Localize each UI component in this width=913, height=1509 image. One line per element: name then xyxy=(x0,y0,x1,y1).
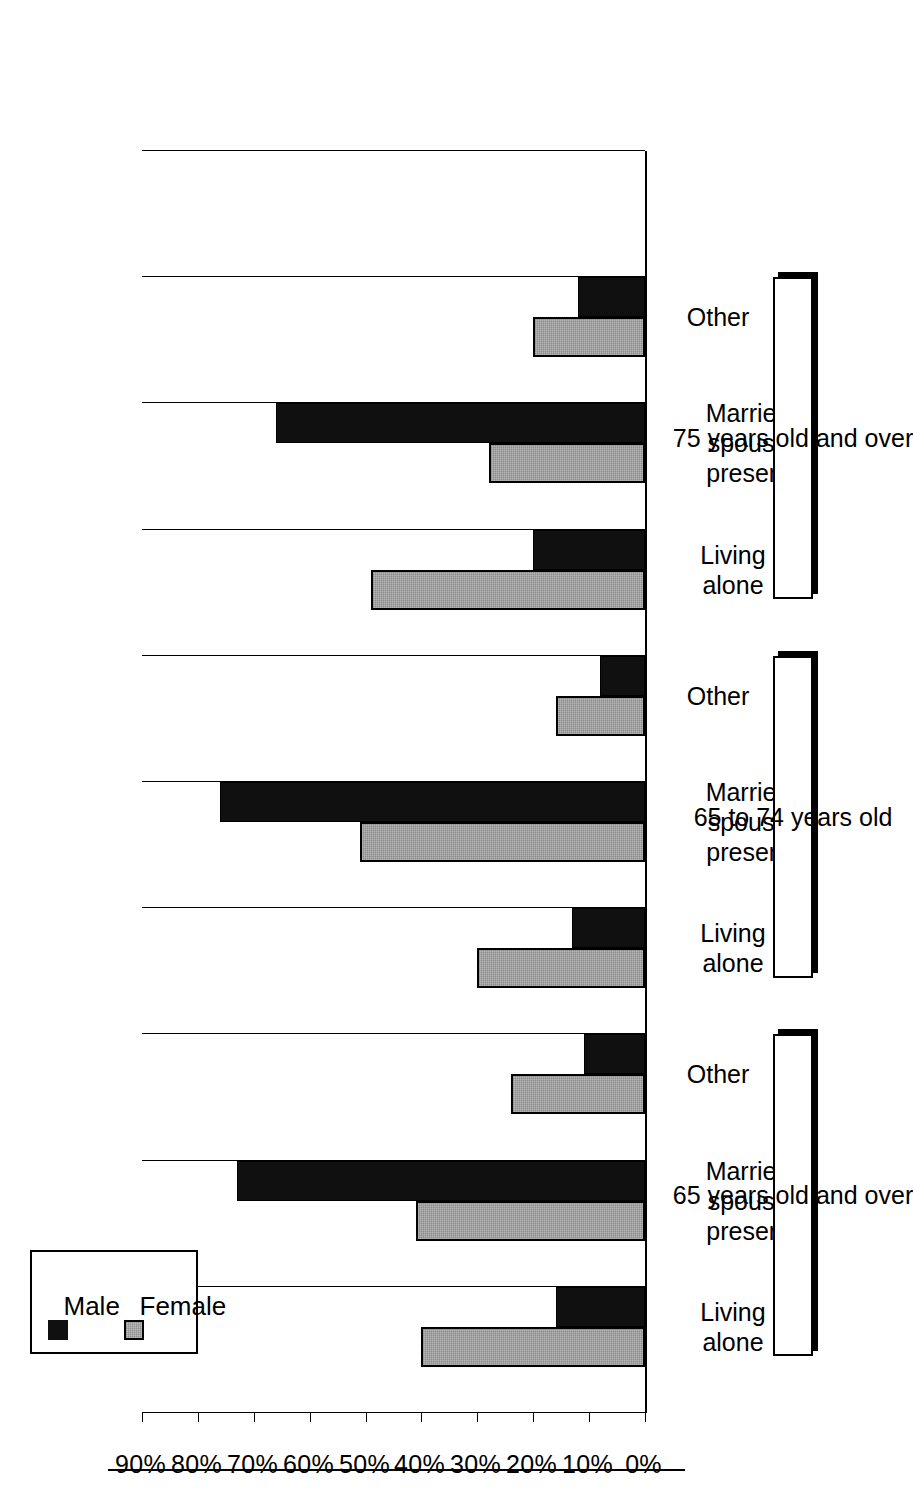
bar-female xyxy=(416,1201,645,1241)
value-axis-baseline xyxy=(645,151,647,1413)
group-label-box: 65 years old and over xyxy=(773,1034,813,1356)
bar-female xyxy=(371,570,645,610)
bar-group-container xyxy=(142,151,645,1413)
male-swatch-icon xyxy=(48,1320,68,1340)
group-label-text: 75 years old and over xyxy=(673,424,913,453)
legend-label-male: Male xyxy=(64,1291,120,1322)
bar-male xyxy=(584,1034,645,1074)
value-tick xyxy=(533,1413,534,1422)
bar-male xyxy=(556,1287,645,1327)
bar-male xyxy=(237,1161,645,1201)
bar-male xyxy=(572,908,645,948)
bar-female xyxy=(533,317,645,357)
group-label-text: 65 years old and over xyxy=(673,1181,913,1210)
value-tick xyxy=(198,1413,199,1422)
category-label: Other xyxy=(648,681,788,711)
bar-male xyxy=(533,530,645,570)
value-tick xyxy=(310,1413,311,1422)
group-label-text: 65 to 74 years old xyxy=(694,802,893,831)
value-tick xyxy=(142,1413,143,1422)
value-tick xyxy=(645,1413,646,1422)
value-tick xyxy=(589,1413,590,1422)
plot-area xyxy=(142,151,645,1413)
group-label-box: 65 to 74 years old xyxy=(773,656,813,978)
bar-male xyxy=(276,403,645,443)
value-tick xyxy=(254,1413,255,1422)
bar-female xyxy=(421,1327,645,1367)
female-swatch-icon xyxy=(124,1320,144,1340)
bar-male xyxy=(600,656,645,696)
bar-female xyxy=(477,948,645,988)
value-tick xyxy=(421,1413,422,1422)
group-label-box: 75 years old and over xyxy=(773,277,813,599)
legend: Male Female xyxy=(30,1250,198,1354)
bar-male xyxy=(578,277,645,317)
legend-label-female: Female xyxy=(140,1291,227,1322)
bar-male xyxy=(220,782,645,822)
value-tick-label: 90% xyxy=(106,1450,176,1479)
value-tick xyxy=(477,1413,478,1422)
bar-female xyxy=(489,443,645,483)
bar-female xyxy=(360,822,645,862)
category-label: Other xyxy=(648,1059,788,1089)
bar-female xyxy=(511,1074,645,1114)
value-tick xyxy=(366,1413,367,1422)
category-label: Other xyxy=(648,302,788,332)
bar-female xyxy=(556,696,645,736)
